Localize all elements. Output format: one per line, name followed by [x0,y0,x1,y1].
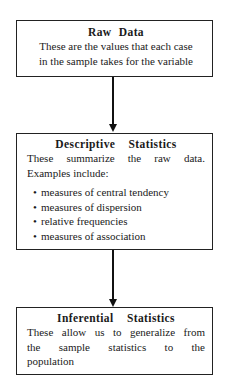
bullet-icon: • [33,214,41,229]
bullet-icon: • [33,200,41,215]
examples-list: •measures of central tendency •measures … [27,185,205,243]
list-item-text: relative frequencies [41,215,127,227]
arrow-1-line [112,77,114,125]
list-item: •measures of central tendency [33,185,205,200]
list-item: •measures of association [33,229,205,244]
descriptive-statistics-line-2: Examples include: [27,166,205,181]
list-item-text: measures of association [41,230,145,242]
list-item: •relative frequencies [33,214,205,229]
descriptive-statistics-title: Descriptive Statistics [27,137,205,151]
arrow-1-head-icon [109,124,117,132]
inferential-statistics-line-1: These allow us to generalize from [27,325,205,340]
arrow-2-head-icon [109,299,117,307]
bullet-icon: • [33,229,41,244]
descriptive-statistics-line-1: These summarize the raw data. [27,151,205,166]
raw-data-title: Raw Data [27,25,205,39]
inferential-statistics-line-2: the sample statistics to the [27,340,205,355]
descriptive-statistics-box: Descriptive Statistics These summarize t… [16,133,213,250]
inferential-statistics-line-3: population [27,354,205,369]
raw-data-box: Raw Data These are the values that each … [16,20,213,77]
raw-data-line-1: These are the values that each case [27,39,205,54]
list-item-text: measures of central tendency [41,186,169,198]
bullet-icon: • [33,185,41,200]
list-item: •measures of dispersion [33,200,205,215]
arrow-2-line [112,250,114,300]
inferential-statistics-title: Inferential Statistics [27,311,205,325]
list-item-text: measures of dispersion [41,201,142,213]
raw-data-line-2: in the sample takes for the variable [27,54,205,69]
inferential-statistics-box: Inferential Statistics These allow us to… [16,307,213,375]
